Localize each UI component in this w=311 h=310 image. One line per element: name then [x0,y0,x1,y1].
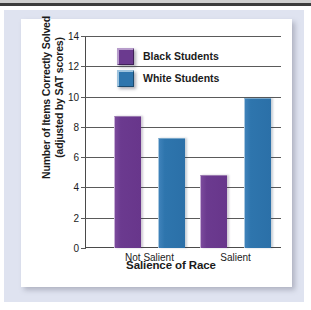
y-tick-mark [81,97,86,98]
y-tick-mark [81,36,86,37]
y-axis-title-line2: (adjusted by SAT scores) [52,0,65,203]
gridline [85,36,281,37]
bar-body [244,98,271,248]
y-tick-label: 8 [73,121,79,132]
bar-body [200,175,227,248]
legend-item-white-students: White Students [117,67,219,89]
y-tick-label: 12 [68,61,79,72]
chart-figure: Number of Items Correctly Solved (adjust… [0,0,311,310]
bar [200,175,227,248]
y-axis-title-line1: Number of Items Correctly Solved [40,16,52,179]
y-tick-label: 4 [73,182,79,193]
legend-item-black-students: Black Students [117,45,219,67]
y-tick-label: 10 [68,91,79,102]
bar [244,98,271,248]
bar-body [114,116,141,248]
bar [114,116,141,248]
blue-swatch-icon [117,70,134,87]
chart-legend: Black Students White Students [117,45,219,89]
y-axis-title: Number of Items Correctly Solved (adjust… [40,0,65,203]
purple-swatch-icon [117,48,134,65]
y-tick-mark [81,248,86,249]
bar-body [158,138,185,248]
legend-label-white-students: White Students [143,72,219,84]
plot-card: Number of Items Correctly Solved (adjust… [21,19,292,287]
y-tick-label: 0 [73,243,79,254]
y-tick-mark [81,157,86,158]
bar [158,138,185,248]
y-axis-line [85,36,86,248]
y-tick-mark [81,66,86,67]
y-tick-mark [81,218,86,219]
y-tick-label: 6 [73,152,79,163]
y-tick-label: 14 [68,31,79,42]
y-tick-label: 2 [73,212,79,223]
y-tick-mark [81,127,86,128]
x-category-label: Not Salient [125,252,174,263]
y-tick-mark [81,187,86,188]
x-category-label: Salient [220,252,251,263]
legend-label-black-students: Black Students [143,50,219,62]
